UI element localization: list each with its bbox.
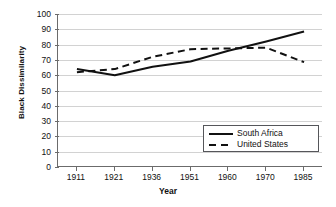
y-tick-label: 0 — [0, 162, 51, 172]
y-tick-label: 70 — [0, 55, 51, 65]
y-tick-label: 90 — [0, 24, 51, 34]
x-tick-label: 1985 — [294, 172, 313, 182]
legend-item-united-states: United States — [208, 139, 314, 150]
line-chart: Black Dissimilarity 10090807060504030201… — [0, 0, 336, 207]
y-tick-label: 10 — [0, 147, 51, 157]
series-line-south-africa — [77, 32, 304, 76]
x-tick-mark — [152, 167, 153, 171]
legend: South Africa United States — [203, 125, 319, 152]
y-tick-label: 30 — [0, 116, 51, 126]
y-tick-label: 60 — [0, 70, 51, 80]
x-tick-mark — [227, 167, 228, 171]
x-tick-label: 1911 — [67, 172, 85, 182]
x-tick-mark — [114, 167, 115, 171]
x-tick-mark — [265, 167, 266, 171]
series-line-united-states — [77, 48, 304, 72]
legend-label-south-africa: South Africa — [237, 128, 283, 139]
x-tick-mark — [303, 167, 304, 171]
y-tick-label: 100 — [0, 9, 51, 19]
y-tick-label: 50 — [0, 86, 51, 96]
legend-swatch-dashed — [208, 140, 234, 150]
x-tick-label: 1921 — [104, 172, 123, 182]
x-tick-mark — [190, 167, 191, 171]
x-tick-label: 1936 — [142, 172, 161, 182]
legend-swatch-solid — [208, 129, 234, 139]
y-tick-label: 40 — [0, 101, 51, 111]
y-tick-mark — [55, 167, 59, 168]
x-tick-label: 1951 — [180, 172, 199, 182]
legend-label-united-states: United States — [237, 139, 288, 150]
legend-item-south-africa: South Africa — [208, 128, 314, 139]
y-axis-title: Black Dissimilarity — [17, 18, 26, 148]
x-axis-title: Year — [0, 186, 336, 196]
y-tick-label: 20 — [0, 131, 51, 141]
x-tick-label: 1960 — [218, 172, 237, 182]
x-tick-label: 1970 — [256, 172, 275, 182]
x-tick-mark — [76, 167, 77, 171]
y-tick-label: 80 — [0, 40, 51, 50]
